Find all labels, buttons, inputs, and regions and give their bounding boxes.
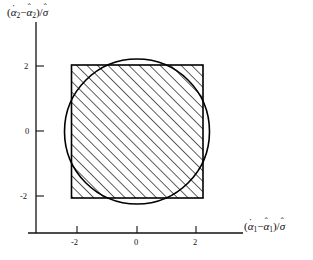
x-tick-label-2: 2 xyxy=(193,238,197,247)
y-tick-label-0: 0 xyxy=(25,127,29,136)
y-tick-label-minus2: -2 xyxy=(20,192,27,201)
hatched-square-region xyxy=(72,65,204,198)
x-tick-label-0: 0 xyxy=(134,238,138,247)
y-tick-label-2: 2 xyxy=(24,62,28,71)
x-tick-label-minus2: -2 xyxy=(71,238,78,247)
y-axis-label-text: (α̇2−αˆ2)/σˆ xyxy=(7,6,48,18)
x-axis-label: (α̇1−αˆ1)/σˆ xyxy=(244,221,285,234)
x-axis-label-text: (α̇1−αˆ1)/σˆ xyxy=(244,220,285,232)
y-axis-label: (α̇2−αˆ2)/σˆ xyxy=(7,7,48,20)
